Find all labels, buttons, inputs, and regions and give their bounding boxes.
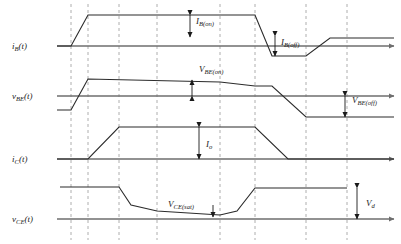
panel-ic: iC(t)Io <box>12 127 394 165</box>
axis-label-vbe: vBE(t) <box>12 91 33 102</box>
waveform-ic <box>57 127 394 159</box>
panel-ib: iB(t)IB(on)IB(off) <box>12 15 394 56</box>
annotation-label-vd: Vd <box>366 198 376 209</box>
panel-vbe: vBE(t)VBE(on)VBE(off) <box>12 64 394 117</box>
annotation-label-ib-off: IB(off) <box>280 37 299 49</box>
axis-label-ib: iB(t) <box>12 41 27 52</box>
axis-label-vce: vCE(t) <box>12 214 33 225</box>
annotation-label-io: Io <box>205 139 213 150</box>
waveform-figure: iB(t)IB(on)IB(off)vBE(t)VBE(on)VBE(off)i… <box>0 0 401 244</box>
waveform-ib <box>57 15 394 56</box>
annotation-label-ib-on: IB(on) <box>195 16 214 28</box>
waveform-vbe <box>57 79 394 117</box>
time-marker-group <box>71 4 347 240</box>
axis-label-ic: iC(t) <box>12 154 27 165</box>
annotation-label-vce-sat: VCE(sat) <box>168 199 194 211</box>
panel-vce: vCE(t)VCE(sat)Vd <box>12 187 394 225</box>
waveform-canvas: iB(t)IB(on)IB(off)vBE(t)VBE(on)VBE(off)i… <box>0 0 401 244</box>
waveform-vce <box>60 187 347 215</box>
